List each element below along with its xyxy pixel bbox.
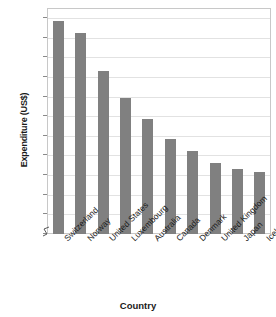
bar-chart: Expenditure (US$) 020 00022 00024 00026 … [0,0,276,317]
gridline [48,175,270,176]
y-tick-mark [43,76,47,77]
y-tick-mark [43,174,47,175]
y-tick-mark [43,115,47,116]
gridline [48,18,270,19]
y-tick-mark [43,213,47,214]
y-tick-mark [43,135,47,136]
gridline [48,116,270,117]
x-axis-title: Country [0,300,276,311]
y-tick-mark [43,154,47,155]
gridline [48,97,270,98]
gridline [48,136,270,137]
y-tick-mark [43,96,47,97]
y-tick-mark [43,194,47,195]
gridline [48,57,270,58]
gridline [48,155,270,156]
gridline [48,195,270,196]
gridline [48,77,270,78]
y-tick-mark [43,17,47,18]
y-tick-mark [43,56,47,57]
plot-area [47,8,271,234]
y-axis-title: Expenditure (US$) [19,50,29,210]
gridline [48,38,270,39]
x-axis-ticks: SwitzerlandNorwayUnited StatesLuxembourg… [47,234,271,300]
y-tick-mark [43,37,47,38]
